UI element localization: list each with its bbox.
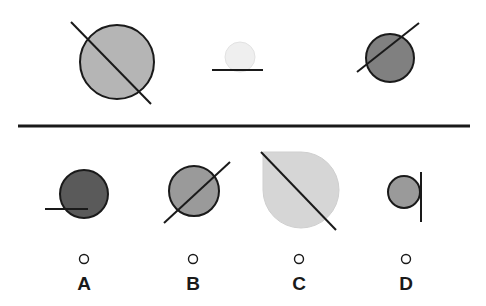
option-c-label: C xyxy=(292,273,306,294)
option-a-label: A xyxy=(77,273,91,294)
option-b-label: B xyxy=(186,273,200,294)
answer-option-c[interactable]: C xyxy=(261,152,339,294)
stimulus-item-3 xyxy=(357,23,419,82)
option-c-radio-button[interactable] xyxy=(295,255,304,264)
answer-option-d[interactable]: D xyxy=(388,172,421,294)
option-d-label: D xyxy=(399,273,413,294)
option-a-radio-button[interactable] xyxy=(80,255,89,264)
answer-option-b[interactable]: B xyxy=(164,162,230,294)
answer-option-a[interactable]: A xyxy=(45,170,108,294)
visual-analogy-puzzle: A B C D xyxy=(0,0,486,306)
option-b-circle xyxy=(169,166,219,216)
stimulus-row xyxy=(71,22,419,104)
puzzle-canvas: A B C D xyxy=(0,0,486,306)
option-d-circle xyxy=(388,176,420,208)
stimulus-2-circle xyxy=(225,42,255,72)
stimulus-item-2 xyxy=(212,42,263,72)
option-a-circle xyxy=(60,170,108,218)
option-c-teardrop-shape xyxy=(263,152,339,228)
option-b-radio-button[interactable] xyxy=(189,255,198,264)
stimulus-1-circle xyxy=(80,25,154,99)
answer-options-row: A B C D xyxy=(45,152,421,294)
option-d-radio-button[interactable] xyxy=(402,255,411,264)
stimulus-item-1 xyxy=(71,22,154,104)
